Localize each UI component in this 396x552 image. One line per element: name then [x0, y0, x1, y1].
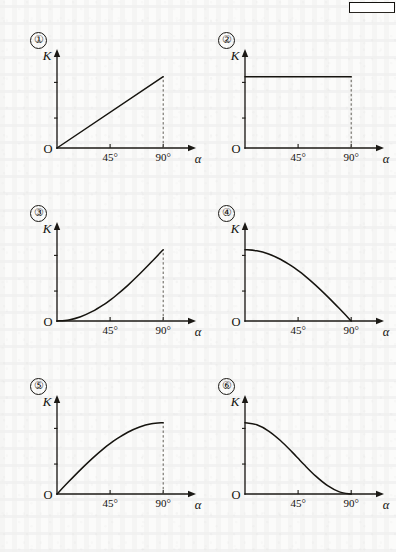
- x-axis-label-5: α: [195, 498, 202, 512]
- x-axis-label-4: α: [383, 325, 390, 339]
- x-tick-45-1: 45°: [102, 151, 117, 163]
- plot-canvas-4: KO45°90°α: [204, 203, 396, 375]
- x-tick-90-2: 90°: [343, 151, 358, 163]
- plot-canvas-3: KO45°90°α: [16, 203, 214, 375]
- x-tick-45-5: 45°: [102, 497, 117, 509]
- x-axis-label-3: α: [195, 325, 202, 339]
- plot-grid: ①KO45°90°α②KO45°90°α③KO45°90°α④KO45°90°α…: [0, 0, 396, 552]
- plot-1: ①KO45°90°α: [16, 30, 214, 202]
- plot-5: ⑤KO45°90°α: [16, 376, 214, 548]
- x-tick-45-3: 45°: [102, 324, 117, 336]
- origin-label-1: O: [43, 142, 52, 156]
- origin-label-5: O: [43, 488, 52, 502]
- y-axis-label-6: K: [230, 394, 241, 409]
- x-tick-45-2: 45°: [290, 151, 305, 163]
- y-axis-label-3: K: [42, 221, 53, 236]
- plot-curve-1: [57, 77, 163, 148]
- origin-label-4: O: [231, 315, 240, 329]
- origin-label-6: O: [231, 488, 240, 502]
- y-axis-label-4: K: [230, 221, 241, 236]
- plot-2: ②KO45°90°α: [204, 30, 396, 202]
- plot-curve-3: [57, 250, 163, 321]
- x-tick-90-4: 90°: [343, 324, 358, 336]
- origin-label-2: O: [231, 142, 240, 156]
- x-tick-90-1: 90°: [155, 151, 170, 163]
- x-axis-label-6: α: [383, 498, 390, 512]
- y-axis-label-5: K: [42, 394, 53, 409]
- x-axis-label-1: α: [195, 152, 202, 166]
- x-tick-90-3: 90°: [155, 324, 170, 336]
- y-axis-label-2: K: [230, 48, 241, 63]
- plot-canvas-1: KO45°90°α: [16, 30, 214, 202]
- x-tick-45-6: 45°: [290, 497, 305, 509]
- plot-curve-6: [245, 423, 351, 494]
- x-tick-45-4: 45°: [290, 324, 305, 336]
- plot-canvas-2: KO45°90°α: [204, 30, 396, 202]
- plot-6: ⑥KO45°90°α: [204, 376, 396, 548]
- plot-4: ④KO45°90°α: [204, 203, 396, 375]
- x-tick-90-6: 90°: [343, 497, 358, 509]
- y-axis-label-1: K: [42, 48, 53, 63]
- x-axis-label-2: α: [383, 152, 390, 166]
- x-tick-90-5: 90°: [155, 497, 170, 509]
- plot-canvas-6: KO45°90°α: [204, 376, 396, 548]
- plot-3: ③KO45°90°α: [16, 203, 214, 375]
- plot-canvas-5: KO45°90°α: [16, 376, 214, 548]
- plot-curve-4: [245, 250, 351, 321]
- plot-curve-5: [57, 423, 163, 494]
- origin-label-3: O: [43, 315, 52, 329]
